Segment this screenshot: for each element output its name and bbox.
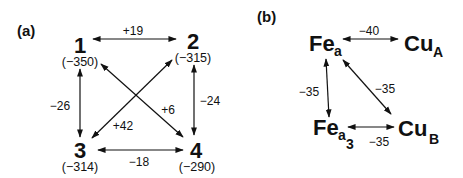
edge-2-3-label: +42 bbox=[113, 119, 134, 133]
node-1: 1 (−350) bbox=[62, 33, 98, 69]
edge-fea3-cub-label: −35 bbox=[369, 135, 390, 149]
edge-fea-cua-label: −40 bbox=[359, 24, 380, 38]
node-cu-b-base: Cu bbox=[398, 116, 427, 141]
node-cu-a-sub: A bbox=[433, 44, 443, 60]
node-cu-b: Cu B bbox=[398, 116, 439, 147]
node-fe-a3-subsub: 3 bbox=[346, 136, 354, 152]
node-fe-a3-base: Fe bbox=[313, 115, 339, 140]
edge-2-4-label: −24 bbox=[200, 94, 221, 108]
node-2: 2 (−315) bbox=[175, 29, 211, 65]
node-fe-a-base: Fe bbox=[309, 31, 335, 56]
edge-fea-cub-label: −35 bbox=[375, 82, 396, 96]
panel-b-label: (b) bbox=[257, 8, 276, 25]
node-4-value: (−290) bbox=[179, 160, 215, 174]
node-1-value: (−350) bbox=[62, 55, 98, 69]
edge-fea-fea3-label: −35 bbox=[299, 85, 320, 99]
edge-fea-fea3-arrow bbox=[326, 59, 329, 117]
edge-1-2-label: +19 bbox=[123, 24, 144, 38]
node-fe-a-sub: a bbox=[334, 43, 342, 59]
panel-a-label: (a) bbox=[17, 22, 35, 39]
node-fe-a: Fe a bbox=[309, 31, 342, 59]
diagram-canvas: (a) 1 (−350) 2 (−315) 3 (−314) 4 (−290) … bbox=[0, 0, 463, 178]
panel-b: (b) Fe a Cu A Fe a 3 Cu B −40 −35 −35 −3 bbox=[257, 8, 443, 152]
panel-a: (a) 1 (−350) 2 (−315) 3 (−314) 4 (−290) … bbox=[17, 22, 221, 174]
edge-1-4-label: +6 bbox=[161, 103, 175, 117]
node-cu-a-base: Cu bbox=[404, 31, 433, 56]
node-3-value: (−314) bbox=[62, 160, 98, 174]
edge-1-3-label: −26 bbox=[50, 99, 71, 113]
node-fe-a3-sub: a bbox=[338, 127, 346, 143]
node-cu-a: Cu A bbox=[404, 31, 443, 60]
edge-3-4-label: −18 bbox=[129, 155, 150, 169]
node-fe-a3: Fe a 3 bbox=[313, 115, 354, 152]
node-2-value: (−315) bbox=[175, 51, 211, 65]
node-cu-b-sub: B bbox=[429, 131, 439, 147]
node-4: 4 (−290) bbox=[179, 138, 215, 174]
node-3: 3 (−314) bbox=[62, 138, 98, 174]
